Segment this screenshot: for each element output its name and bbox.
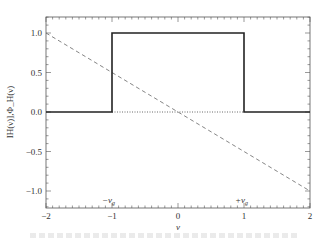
y-tick-label: 0.5	[31, 68, 43, 78]
x-axis-label: ν	[176, 222, 180, 232]
caption-strip	[30, 233, 300, 238]
y-tick-label: −1.0	[26, 186, 43, 196]
x-tick-label: 0	[176, 211, 181, 221]
x-tick-label: 1	[242, 211, 247, 221]
y-axis-label: IH(ν)],Φ_H(ν)	[5, 86, 15, 138]
chart: 1.0 0.5 0.0 −0.5 −1.0 −2 −1 0 1 2 −νg +ν…	[0, 0, 327, 243]
x-tick-label: −1	[107, 211, 117, 221]
y-tick-label: 0.0	[31, 107, 43, 117]
y-tick-label: −0.5	[26, 147, 43, 157]
annotation-minus-vg: −νg	[102, 195, 115, 206]
magnitude-line	[46, 33, 310, 112]
x-tick-label: 2	[308, 211, 313, 221]
y-tick-label: 1.0	[31, 28, 43, 38]
annotation-plus-vg: +νg	[235, 195, 248, 206]
x-tick-label: −2	[41, 211, 51, 221]
